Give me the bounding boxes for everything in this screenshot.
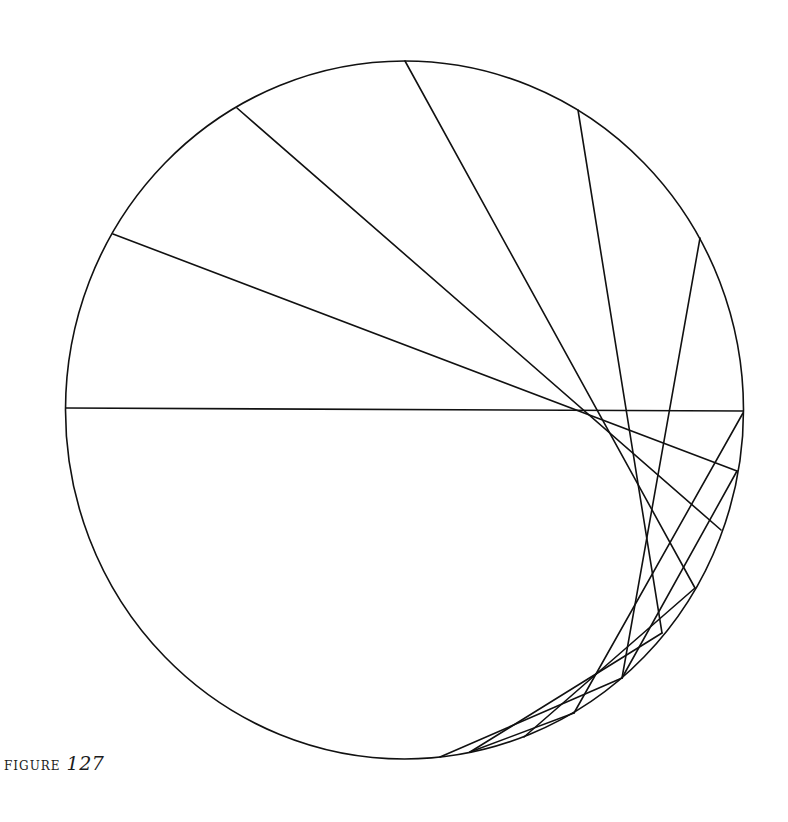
figure-caption: FIGURE127 [4, 752, 104, 774]
chord-line [66, 408, 743, 411]
chord-lines [66, 61, 743, 757]
chord-line [237, 108, 721, 530]
chord-line [113, 234, 737, 471]
chord-line [574, 413, 743, 713]
figure-caption-label: FIGURE [4, 754, 61, 774]
chord-line [578, 110, 662, 633]
chord-line [524, 588, 695, 737]
chord-line [440, 678, 622, 757]
figure-diagram [0, 0, 788, 822]
chord-line [470, 633, 662, 752]
figure-caption-number: 127 [67, 752, 105, 774]
